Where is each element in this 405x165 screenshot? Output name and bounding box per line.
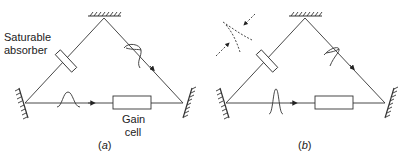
panel-b [216, 12, 398, 119]
mirror-right-icon [385, 87, 398, 118]
beam-top-right [305, 18, 385, 103]
caption-b: (b) [298, 139, 311, 151]
caption-paren-close: ) [308, 139, 312, 151]
pulse-tilted-icon [124, 44, 141, 68]
saturable-absorber [55, 50, 76, 72]
gain-label-line2: cell [122, 126, 144, 139]
panel-a [15, 12, 196, 119]
mirror-left-icon [216, 88, 229, 119]
absorber-label-line1: Saturable [4, 31, 51, 44]
gain-cell [113, 96, 151, 109]
pulse-narrow-icon [269, 89, 283, 114]
gain-cell-label: Gain cell [122, 113, 144, 139]
mirror-left-icon [15, 88, 28, 119]
gain-cell [315, 96, 353, 109]
saturable-absorber [256, 50, 277, 72]
pulse-broad-icon [57, 92, 80, 107]
ring-laser-diagram [0, 0, 405, 165]
mirror-top-icon [289, 12, 322, 16]
caption-a: (a) [98, 139, 111, 151]
gain-label-line1: Gain [122, 113, 144, 126]
absorber-label: Saturable absorber [4, 31, 51, 57]
absorber-label-line2: absorber [4, 44, 51, 57]
pulse-tilted-icon [324, 48, 339, 66]
beam-top-right [104, 18, 183, 103]
dashed-beam-focus-icon [216, 14, 255, 56]
caption-paren-close: ) [108, 139, 112, 151]
mirror-top-icon [88, 12, 121, 16]
mirror-right-icon [183, 87, 196, 118]
